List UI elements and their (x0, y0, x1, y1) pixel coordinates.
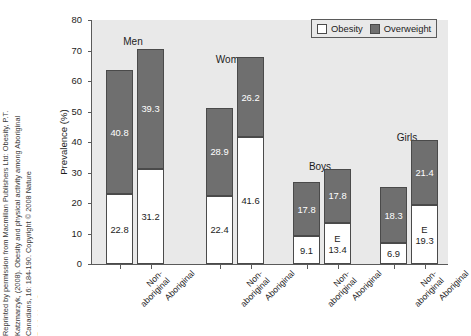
segment-value: 22.4 (210, 224, 228, 235)
y-tick-mark (88, 264, 92, 265)
credit-line-4: Publishing Group. (35, 0, 38, 336)
bar-girls-non-aboriginal[interactable]: 18.3 6.9 (380, 187, 407, 264)
segment-value: 28.9 (210, 146, 228, 157)
legend-swatch-obesity-icon (317, 24, 327, 34)
segment-value: 6.9 (387, 248, 400, 259)
segment-obesity[interactable]: E 19.3 (411, 205, 438, 264)
segment-value: 41.6 (241, 195, 259, 206)
legend-label-overweight: Overweight (384, 23, 431, 34)
y-tick-label: 50 (72, 105, 82, 118)
segment-number: 13.4 (328, 244, 346, 255)
segment-obesity[interactable]: 22.4 (206, 196, 233, 264)
legend: Obesity Overweight (311, 19, 437, 38)
segment-value: E 13.4 (328, 233, 346, 255)
segment-obesity[interactable]: 9.1 (293, 236, 320, 264)
y-tick-mark (88, 112, 92, 113)
segment-overweight[interactable]: 40.8 (106, 70, 133, 195)
y-tick-label: 10 (72, 227, 82, 240)
segment-overweight[interactable]: 28.9 (206, 108, 233, 196)
segment-overweight[interactable]: 17.8 (293, 182, 320, 236)
segment-overweight[interactable]: 21.4 (411, 140, 438, 205)
x-tick (120, 264, 121, 269)
credit-line-1: Reprinted by permission from Macmillan P… (0, 0, 12, 336)
segment-value: 22.8 (110, 224, 128, 235)
y-tick-mark (88, 20, 92, 21)
bar-men-non-aboriginal[interactable]: 40.8 22.8 (106, 70, 133, 264)
x-tick (394, 264, 395, 269)
y-tick-label: 20 (72, 196, 82, 209)
segment-value: 18.3 (384, 210, 402, 221)
x-tick (338, 264, 339, 269)
y-tick-mark (88, 203, 92, 204)
segment-overweight[interactable]: 18.3 (380, 187, 407, 243)
x-tick (251, 264, 252, 269)
x-label-boys-non-aboriginal: Non- aboriginal (319, 269, 359, 309)
segment-value: 17.8 (297, 204, 315, 215)
quality-flag-e: E (415, 224, 433, 235)
segment-value: E 19.3 (415, 224, 433, 246)
bar-women-non-aboriginal[interactable]: 28.9 22.4 (206, 108, 233, 265)
group-title-men: Men (123, 36, 142, 47)
credit-line-3: Canadians, 16: 184-190. Copyright © 2008… (23, 0, 35, 336)
x-tick (425, 264, 426, 269)
segment-obesity[interactable]: 22.8 (106, 194, 133, 264)
x-tick (220, 264, 221, 269)
segment-overweight[interactable]: 17.8 (324, 169, 351, 223)
permission-credit: Reprinted by permission from Macmillan P… (0, 0, 38, 336)
bar-men-aboriginal[interactable]: 39.3 31.2 (137, 49, 164, 264)
segment-overweight[interactable]: 26.2 (237, 57, 264, 137)
x-label-women-non-aboriginal: Non- aboriginal (232, 269, 272, 309)
y-tick-label: 40 (72, 135, 82, 148)
quality-flag-e: E (328, 233, 346, 244)
y-tick-mark (88, 173, 92, 174)
y-tick-mark (88, 142, 92, 143)
x-tick (151, 264, 152, 269)
y-tick-label: 70 (72, 44, 82, 57)
bar-boys-non-aboriginal[interactable]: 17.8 9.1 (293, 182, 320, 264)
x-label-men-non-aboriginal: Non- aboriginal (132, 269, 172, 309)
plot-area: 0 10 20 30 40 50 60 70 (91, 20, 448, 265)
segment-value: 26.2 (241, 92, 259, 103)
y-tick-label: 80 (72, 13, 82, 26)
segment-value: 9.1 (300, 245, 313, 256)
segment-value: 21.4 (415, 167, 433, 178)
segment-value: 40.8 (110, 127, 128, 138)
segment-obesity[interactable]: 41.6 (237, 137, 264, 264)
bar-girls-aboriginal[interactable]: 21.4 E 19.3 (411, 140, 438, 264)
y-tick-mark (88, 234, 92, 235)
legend-label-obesity: Obesity (331, 23, 363, 34)
bar-women-aboriginal[interactable]: 26.2 41.6 (237, 57, 264, 264)
legend-item-overweight[interactable]: Overweight (370, 23, 431, 34)
segment-obesity[interactable]: 6.9 (380, 243, 407, 264)
y-tick-label: 30 (72, 166, 82, 179)
legend-swatch-overweight-icon (370, 24, 380, 34)
segment-number: 19.3 (415, 235, 433, 246)
credit-line-2: Katzmarzyk, (2008). Obesity and physical… (12, 0, 24, 336)
y-tick-mark (88, 51, 92, 52)
y-tick-mark (88, 81, 92, 82)
segment-obesity[interactable]: E 13.4 (324, 223, 351, 264)
y-tick-label: 60 (72, 74, 82, 87)
legend-item-obesity[interactable]: Obesity (317, 23, 363, 34)
segment-value: 31.2 (141, 211, 159, 222)
segment-overweight[interactable]: 39.3 (137, 49, 164, 169)
y-tick-label: 0 (77, 257, 82, 270)
x-label-girls-non-aboriginal: Non- aboriginal (406, 269, 446, 309)
segment-value: 17.8 (328, 190, 346, 201)
x-tick (307, 264, 308, 269)
bar-boys-aboriginal[interactable]: 17.8 E 13.4 (324, 169, 351, 264)
segment-obesity[interactable]: 31.2 (137, 169, 164, 264)
segment-value: 39.3 (141, 103, 159, 114)
y-axis-title: Prevalence (%) (58, 20, 72, 264)
